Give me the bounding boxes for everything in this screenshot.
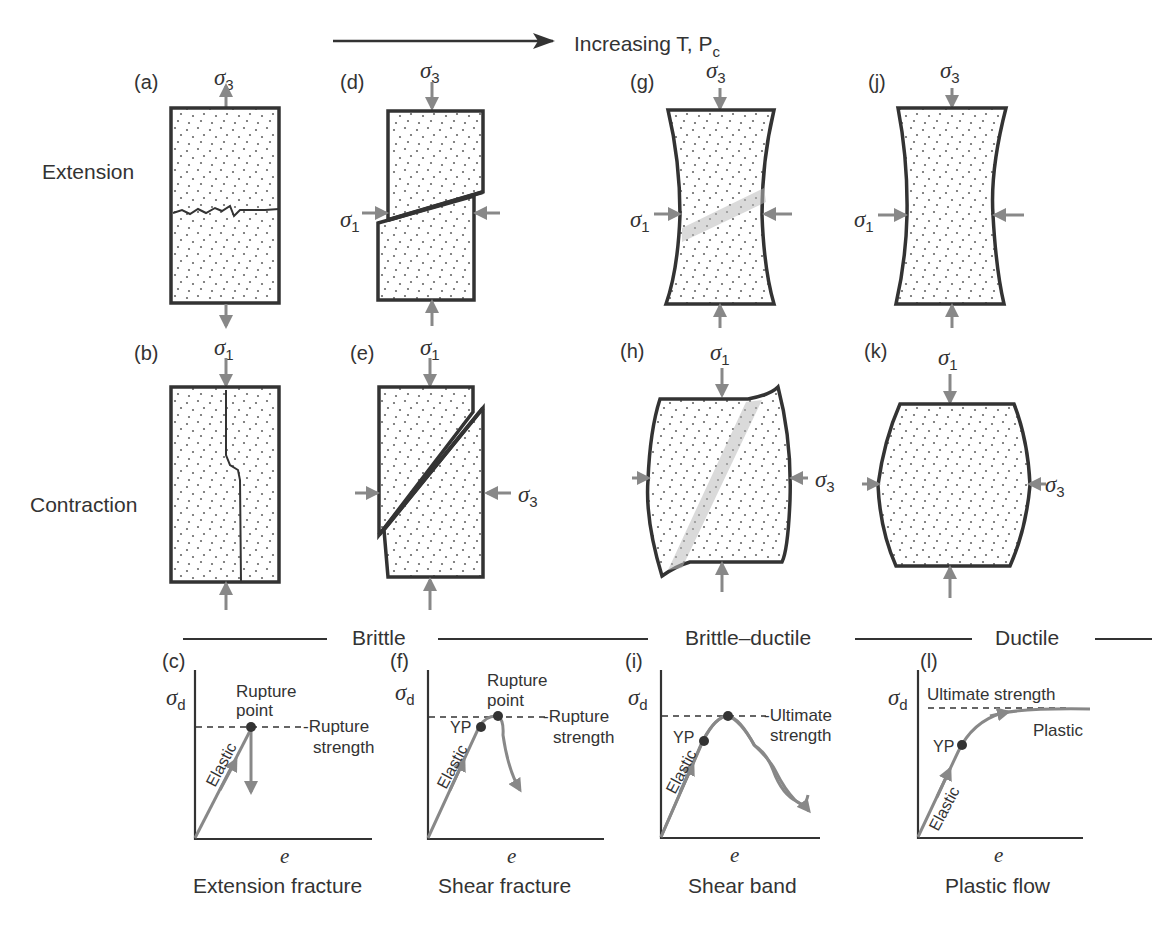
trend-header: Increasing T, Pc <box>333 32 721 60</box>
panel-label: (h) <box>620 340 644 362</box>
caption: Shear band <box>688 874 797 897</box>
annotation: YP <box>933 738 954 755</box>
regime-ductile: Ductile <box>995 626 1059 649</box>
sigma1-label: σ1 <box>710 340 730 368</box>
panel-label: (k) <box>864 340 887 362</box>
caption: Extension fracture <box>193 874 362 897</box>
regime-divider: Brittle Brittle–ductile Ductile <box>183 626 1152 649</box>
annotation: strength <box>553 728 614 747</box>
panel-label: (g) <box>630 71 654 93</box>
rupture-point-marker <box>246 722 256 732</box>
sigma3-label: σ3 <box>518 482 538 510</box>
annotation: strength <box>313 738 374 757</box>
annotation: Elastic <box>663 747 700 797</box>
annotation: -Rupture <box>303 717 369 736</box>
annotation: Elastic <box>434 742 471 792</box>
deformation-diagram: Increasing T, Pc Extension Contraction (… <box>0 0 1172 930</box>
sigma1-label: σ1 <box>340 207 360 235</box>
annotation: Rupture <box>487 671 547 690</box>
y-axis-label: σd <box>166 685 186 713</box>
panel-label: (f) <box>390 650 409 672</box>
trend-label: Increasing T, Pc <box>574 32 721 60</box>
panel-label: (j) <box>868 71 886 93</box>
panel-label: (d) <box>340 71 364 93</box>
y-axis-label: σd <box>395 680 415 708</box>
x-axis-label: e <box>280 844 289 868</box>
yield-point-marker <box>699 736 709 746</box>
panel-label: (l) <box>920 650 938 672</box>
sigma1-label: σ1 <box>214 335 234 363</box>
sigma3-label: σ3 <box>815 467 835 495</box>
panel-e: (e) σ1 σ3 <box>350 335 538 610</box>
rock-sample-necked <box>896 108 1006 304</box>
panel-label: (e) <box>350 342 374 364</box>
regime-brittle: Brittle <box>352 626 406 649</box>
sigma3-label: σ3 <box>706 58 726 86</box>
regime-brittle-ductile: Brittle–ductile <box>685 626 811 649</box>
panel-k: (k) σ1 σ3 <box>862 340 1065 598</box>
sigma3-label: σ3 <box>214 65 234 93</box>
graph-l: (l) σd e YP Ultimate strength Plastic El… <box>888 650 1090 897</box>
panel-j: (j) σ3 σ1 <box>854 58 1024 328</box>
ultimate-point-marker <box>723 711 733 721</box>
graph-i: (i) σd e YP -Ultimate strength Elastic S… <box>625 650 832 897</box>
panel-b: (b) σ1 <box>134 335 279 610</box>
x-axis-label: e <box>994 843 1003 867</box>
graph-f: (f) σd e YP Rupture point -Rupture stren… <box>390 650 614 897</box>
x-axis-label: e <box>507 844 516 868</box>
panel-label: (b) <box>134 342 158 364</box>
annotation: YP <box>450 719 471 736</box>
panel-a: (a) σ3 <box>134 65 279 326</box>
sigma1-label: σ1 <box>630 207 650 235</box>
y-axis-label: σd <box>628 685 648 713</box>
annotation: -Rupture <box>543 707 609 726</box>
panel-d: (d) σ3 σ1 <box>340 58 500 326</box>
panel-label: (a) <box>134 71 158 93</box>
annotation: Ultimate strength <box>927 685 1056 704</box>
panel-label: (c) <box>162 650 185 672</box>
panel-g: (g) σ3 σ1 <box>630 58 792 328</box>
annotation: -Ultimate <box>764 706 832 725</box>
panel-label: (i) <box>625 650 643 672</box>
annotation: Rupture <box>236 682 296 701</box>
caption: Plastic flow <box>945 874 1051 897</box>
rock-sample-necked <box>666 110 774 304</box>
y-axis-label: σd <box>888 685 908 713</box>
rock-sample-barrelled <box>878 404 1030 566</box>
sigma1-label: σ1 <box>854 207 874 235</box>
annotation: YP <box>673 729 694 746</box>
x-axis-label: e <box>730 843 739 867</box>
sigma1-label: σ1 <box>938 345 958 373</box>
yield-point-marker <box>476 722 486 732</box>
graph-c: (c) σd e Rupture point -Rupture strength… <box>162 650 374 897</box>
annotation: point <box>487 691 524 710</box>
sigma3-label: σ3 <box>420 58 440 86</box>
rupture-point-marker <box>493 711 503 721</box>
row-label-contraction: Contraction <box>30 493 137 516</box>
annotation: strength <box>770 726 831 745</box>
rock-sample <box>171 108 279 303</box>
annotation: point <box>236 701 273 720</box>
sigma3-label: σ3 <box>940 58 960 86</box>
sigma3-label: σ3 <box>1045 472 1065 500</box>
annotation: Plastic <box>1033 721 1084 740</box>
panel-h: (h) σ1 σ3 <box>620 340 835 592</box>
yield-point-marker <box>957 740 967 750</box>
caption: Shear fracture <box>438 874 571 897</box>
row-label-extension: Extension <box>42 160 134 183</box>
